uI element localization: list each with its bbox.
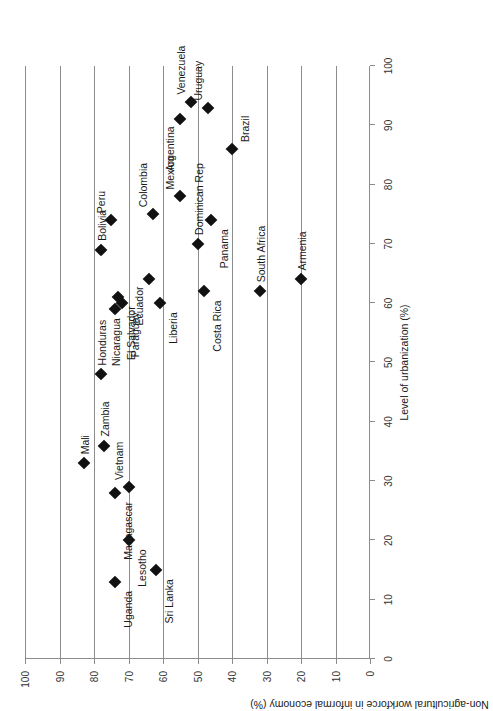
data-point-marker [295, 273, 308, 286]
y-axis-tick [198, 659, 199, 664]
y-axis-tick [94, 659, 95, 664]
data-point-label: Paraguay [129, 312, 141, 357]
data-point-label: Argentina [164, 126, 176, 171]
x-axis-tick [370, 302, 375, 303]
x-axis-tick-label: 20 [383, 535, 394, 546]
y-axis-tick-label: 90 [54, 671, 65, 682]
data-point-marker [198, 285, 211, 298]
plot-area: 0102030405060708090100010203040506070809… [25, 66, 370, 659]
data-point-marker [95, 368, 108, 381]
data-point-marker [226, 143, 239, 156]
data-point-label: Peru [95, 191, 107, 213]
x-axis-tick [370, 243, 375, 244]
y-axis-tick [370, 659, 371, 664]
data-point-label: Uganda [122, 591, 134, 628]
y-axis-tick-label: 70 [123, 671, 134, 682]
data-point-marker [191, 238, 204, 251]
x-axis-tick [370, 658, 375, 659]
data-point-marker [205, 214, 218, 227]
y-axis-tick [336, 659, 337, 664]
y-axis-tick-label: 100 [20, 671, 31, 688]
gridline [301, 66, 302, 659]
data-point-marker [122, 481, 135, 494]
data-point-label: Colombia [137, 163, 149, 207]
data-point-label: Costa Rica [211, 300, 223, 351]
x-axis-tick-label: 50 [383, 357, 394, 368]
data-point-marker [146, 208, 159, 221]
x-axis-tick [370, 480, 375, 481]
y-axis-tick [267, 659, 268, 664]
data-point-marker [174, 190, 187, 203]
x-axis-tick-label: 30 [383, 476, 394, 487]
data-point-marker [143, 273, 156, 286]
x-axis-tick [370, 184, 375, 185]
data-point-label: Zambia [99, 402, 111, 437]
data-point-label: Bolivia [96, 210, 108, 241]
x-axis-tick-label: 100 [383, 58, 394, 75]
y-axis-tick-label: 50 [192, 671, 203, 682]
data-point-label: Honduras [96, 320, 108, 366]
y-axis-tick [60, 659, 61, 664]
gridline [60, 66, 61, 659]
data-point-label: Venezuela [175, 46, 187, 95]
x-axis-tick [370, 421, 375, 422]
data-point-marker [95, 243, 108, 256]
y-axis-title: Non-agricultural workforce in informal e… [197, 699, 493, 711]
y-axis-tick-label: 80 [89, 671, 100, 682]
data-point-label: Brazil [239, 116, 251, 142]
data-point-label: Sri Lanka [163, 579, 175, 623]
x-axis-tick-label: 80 [383, 179, 394, 190]
data-point-marker [98, 439, 111, 452]
gridline [198, 66, 199, 659]
y-axis-tick-label: 60 [158, 671, 169, 682]
y-axis-tick [232, 659, 233, 664]
x-axis-line [369, 66, 370, 659]
data-point-label: Mali [79, 435, 91, 454]
data-point-label: South Africa [255, 226, 267, 283]
x-axis-tick [370, 599, 375, 600]
data-point-label: Vietnam [113, 442, 125, 480]
y-axis-tick [163, 659, 164, 664]
y-axis-tick-label: 30 [261, 671, 272, 682]
x-axis-tick-label: 70 [383, 238, 394, 249]
data-point-label: Liberia [167, 312, 179, 344]
gridline [25, 66, 26, 659]
data-point-marker [201, 101, 214, 114]
x-axis-tick [370, 539, 375, 540]
y-axis-tick-label: 40 [227, 671, 238, 682]
data-point-label: Lesotho [136, 549, 148, 586]
y-axis-tick [25, 659, 26, 664]
y-axis-tick-label: 10 [330, 671, 341, 682]
gridline [94, 66, 95, 659]
data-point-marker [253, 285, 266, 298]
data-point-label: Nicaragua [110, 318, 122, 366]
data-point-marker [77, 457, 90, 470]
data-point-label: Uruguay [192, 61, 204, 101]
x-axis-tick-label: 10 [383, 594, 394, 605]
y-axis-tick [301, 659, 302, 664]
x-axis-tick-label: 0 [383, 656, 394, 662]
data-point-marker [150, 564, 163, 577]
data-point-marker [153, 297, 166, 310]
x-axis-tick-label: 40 [383, 416, 394, 427]
x-axis-tick [370, 65, 375, 66]
data-point-marker [174, 113, 187, 126]
x-axis-tick-label: 60 [383, 298, 394, 309]
y-axis-tick-label: 20 [296, 671, 307, 682]
x-axis-tick [370, 362, 375, 363]
data-point-label: Madagascar [122, 502, 134, 560]
x-axis-tick [370, 124, 375, 125]
gridline [336, 66, 337, 659]
y-axis-tick-label: 0 [365, 671, 376, 677]
data-point-label: Armenia [296, 231, 308, 270]
y-axis-tick [129, 659, 130, 664]
gridline [267, 66, 268, 659]
x-axis-tick-label: 90 [383, 120, 394, 131]
data-point-marker [108, 576, 121, 589]
gridline [129, 66, 130, 659]
data-point-label: Panama [218, 229, 230, 268]
data-point-marker [108, 487, 121, 500]
x-axis-title: Level of urbanization (%) [398, 66, 410, 659]
